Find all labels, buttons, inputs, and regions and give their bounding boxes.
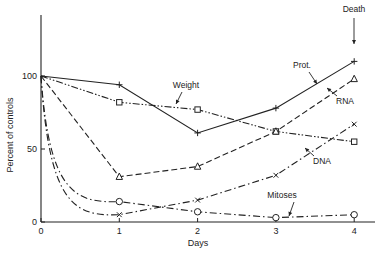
annotation-death: Death [343,4,366,14]
x-marker-icon [352,122,357,127]
plus-marker-icon [194,130,200,136]
x-marker-icon [274,173,279,178]
x-axis-label: Days [188,238,209,248]
x-tick-label: 1 [117,226,122,236]
y-tick-label: 0 [32,217,37,227]
square-marker-icon [195,107,200,112]
plus-marker-icon [116,82,122,88]
annotation-rna: RNA [336,96,354,106]
circle-marker-icon [194,209,200,215]
square-marker-icon [352,139,357,144]
y-tick-label: 100 [22,71,37,81]
annotation-mitoses: Mitoses [267,190,296,200]
x-tick-label: 2 [195,226,200,236]
circle-marker-icon [273,214,279,220]
circle-marker-icon [351,212,357,218]
y-tick-label: 50 [27,144,37,154]
axes [41,15,375,222]
series-rna [41,75,357,179]
arrowhead-icon [352,40,356,44]
x-tick-label: 4 [352,226,357,236]
square-marker-icon [117,100,122,105]
plus-marker-icon [351,58,357,64]
x-tick-label: 0 [38,226,43,236]
series-dna [41,76,357,217]
x-tick-label: 3 [273,226,278,236]
x-axis-ticks: 01234 [38,218,356,236]
annotation-dna: DNA [313,156,331,166]
circle-marker-icon [116,198,122,204]
y-axis-label: Percent of controls [5,97,15,173]
annotation-weight: Weight [173,80,200,90]
series-lines [41,58,357,221]
arrowhead-icon [313,80,317,84]
plus-marker-icon [273,105,279,111]
line-chart: 050100 01234 Percent of controls Days De… [0,0,383,256]
triangle-marker-icon [351,75,357,81]
annotation-prot: Prot. [293,60,311,70]
